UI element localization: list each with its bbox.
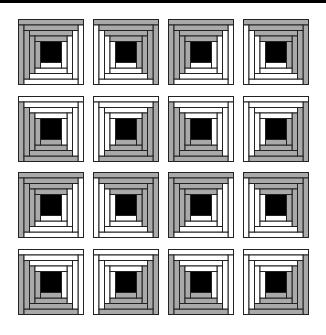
quilt-block <box>243 249 309 315</box>
quilt-block <box>18 249 84 315</box>
quilt-block <box>93 249 159 315</box>
quilt-block <box>93 172 159 238</box>
quilt-block <box>243 96 309 162</box>
quilt-block <box>93 19 159 85</box>
quilt-block <box>18 19 84 85</box>
quilt-block <box>168 249 234 315</box>
quilt-block <box>93 96 159 162</box>
quilt-block <box>168 172 234 238</box>
quilt-block <box>243 172 309 238</box>
quilt-block <box>18 96 84 162</box>
quilt-block <box>243 19 309 85</box>
log-cabin-quilt-grid <box>0 0 326 335</box>
quilt-block <box>18 172 84 238</box>
quilt-block <box>168 19 234 85</box>
quilt-block <box>168 96 234 162</box>
